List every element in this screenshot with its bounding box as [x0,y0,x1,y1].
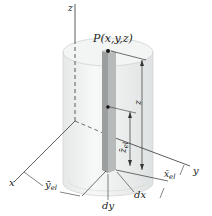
dx-label: dx [134,190,146,200]
z-el-symbol: z̄ [118,148,128,153]
dy-label: dy [102,201,114,211]
z-axis-label: z [68,4,73,13]
x-el-label: x̄el [164,170,175,181]
y-axis-label: y [193,166,199,176]
point-label: P(x,y,z) [93,33,133,44]
z-height-label: z [134,100,143,105]
z-el-subscript: el [122,142,130,148]
differential-element [102,49,116,173]
y-el-subscript: el [51,184,57,192]
z-el-label: z̄el [119,142,130,153]
x-el-subscript: el [169,173,175,181]
x-axis-label: x [9,178,15,188]
y-el-label: ȳel [45,180,57,192]
